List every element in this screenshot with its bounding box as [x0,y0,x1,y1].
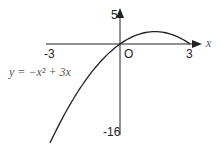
x-axis-label: x [206,37,211,49]
origin-label: O [124,48,133,60]
equation-label: y = −x² + 3x [9,66,71,78]
x-axis-arrow-icon [192,40,202,48]
x-tick-right: 3 [186,48,193,60]
x-tick-left: -3 [44,48,55,60]
y-tick-top: 5 [111,9,118,21]
y-tick-bottom: -16 [103,126,120,138]
